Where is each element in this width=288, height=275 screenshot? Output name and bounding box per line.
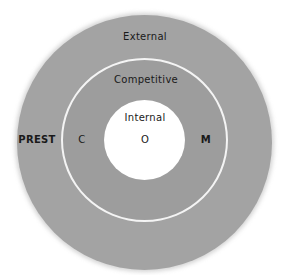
c-label: C bbox=[78, 134, 85, 146]
concentric-environment-diagram: External PREST Competitive C M Internal … bbox=[0, 0, 288, 275]
external-label: External bbox=[123, 31, 167, 43]
m-label: M bbox=[201, 134, 211, 146]
internal-label: Internal bbox=[125, 112, 166, 124]
o-label: O bbox=[141, 134, 149, 146]
prest-label: PREST bbox=[18, 134, 55, 146]
competitive-label: Competitive bbox=[114, 74, 178, 86]
